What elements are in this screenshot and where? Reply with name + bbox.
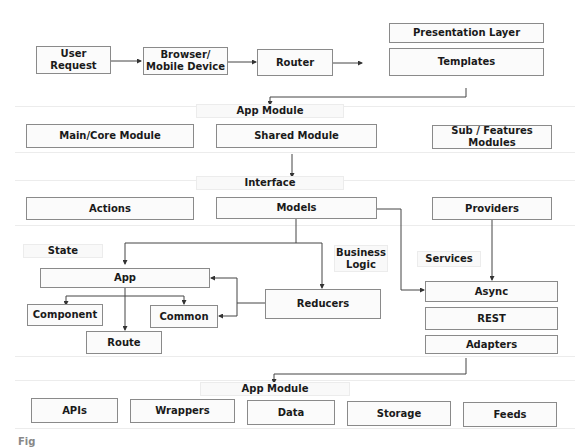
feeds-box: Feeds bbox=[463, 402, 557, 427]
templates-box: Templates bbox=[389, 48, 544, 76]
bottom-app-module-label: App Module bbox=[200, 382, 350, 396]
figure-caption: Fig bbox=[18, 436, 35, 447]
interface-label: Interface bbox=[196, 176, 344, 190]
wrappers-box: Wrappers bbox=[130, 399, 235, 423]
data-box: Data bbox=[247, 400, 335, 425]
rest-box: REST bbox=[425, 307, 558, 330]
user-request-box: User Request bbox=[36, 46, 111, 74]
app-box: App bbox=[40, 268, 210, 288]
actions-box: Actions bbox=[26, 197, 194, 220]
router-box: Router bbox=[257, 49, 333, 76]
route-box: Route bbox=[86, 331, 162, 354]
state-label: State bbox=[23, 244, 103, 258]
storage-box: Storage bbox=[347, 401, 451, 426]
async-box: Async bbox=[425, 281, 558, 302]
business-logic-label: Business Logic bbox=[334, 245, 388, 272]
providers-box: Providers bbox=[432, 197, 552, 220]
common-box: Common bbox=[150, 305, 218, 328]
sub-features-modules-box: Sub / Features Modules bbox=[432, 125, 552, 149]
component-box: Component bbox=[27, 304, 103, 326]
presentation-layer-box: Presentation Layer bbox=[389, 23, 544, 43]
adapters-box: Adapters bbox=[425, 335, 558, 354]
reducers-box: Reducers bbox=[265, 289, 381, 319]
apis-box: APIs bbox=[31, 398, 118, 423]
browser-mobile-device-box: Browser/ Mobile Device bbox=[143, 47, 228, 75]
models-box: Models bbox=[216, 197, 377, 219]
main-core-module-box: Main/Core Module bbox=[26, 124, 194, 148]
services-label: Services bbox=[417, 251, 481, 267]
app-module-label: App Module bbox=[196, 104, 344, 118]
shared-module-box: Shared Module bbox=[216, 124, 377, 148]
